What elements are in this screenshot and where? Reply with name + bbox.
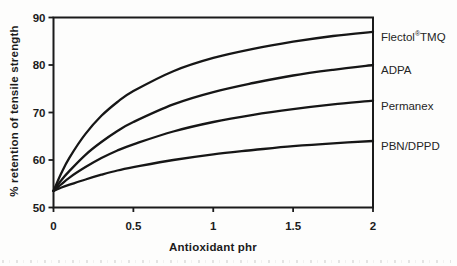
- curve-pbn-dppd: [54, 141, 374, 191]
- curve-adpa: [54, 65, 374, 191]
- x-tick-label: 0.5: [125, 220, 142, 232]
- series-label-pbn-dppd: PBN/DPPD: [381, 140, 440, 153]
- y-tick-label: 80: [33, 59, 46, 71]
- y-tick-label: 70: [33, 107, 46, 119]
- y-axis-title: % retention of tensile strength: [8, 25, 20, 197]
- x-tick-label: 0: [50, 220, 56, 232]
- cropped-caption-remnant: [2, 260, 451, 263]
- x-tick-label: 1.5: [285, 220, 302, 232]
- curve-permanex: [54, 101, 374, 191]
- plot-border: [54, 18, 374, 208]
- y-tick-label: 90: [33, 12, 46, 24]
- x-tick-label: 1: [210, 220, 217, 232]
- x-axis-title: Antioxidant phr: [53, 241, 373, 253]
- series-label-flectol-tmq: Flectol®TMQ: [381, 31, 446, 44]
- series-label-permanex: Permanex: [381, 100, 433, 113]
- curve-flectol-tmq: [54, 32, 374, 191]
- y-tick-label: 60: [33, 154, 46, 166]
- series-label-adpa: ADPA: [381, 64, 411, 77]
- x-tick-label: 2: [370, 220, 376, 232]
- y-tick-label: 50: [33, 202, 46, 214]
- tensile-retention-chart: 00.511.525060708090 % retention of tensi…: [0, 0, 457, 266]
